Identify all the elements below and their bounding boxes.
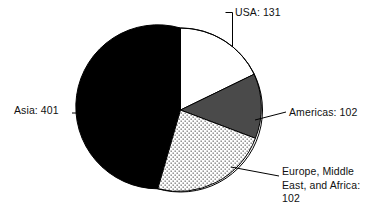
- pie-label-emea-line2: East, and Africa: 102: [282, 179, 377, 206]
- pie-label-americas: Americas: 102: [289, 106, 357, 119]
- pie-label-asia: Asia: 401: [14, 104, 59, 117]
- pie-chart-figure: USA: 131 Asia: 401 Americas: 102 Europe,…: [0, 0, 377, 207]
- leader-line-emea: [231, 167, 279, 176]
- pie-label-emea: Europe, Middle East, and Africa: 102: [282, 165, 377, 206]
- pie-label-emea-line1: Europe, Middle: [282, 165, 377, 179]
- pie-label-usa: USA: 131: [235, 6, 281, 19]
